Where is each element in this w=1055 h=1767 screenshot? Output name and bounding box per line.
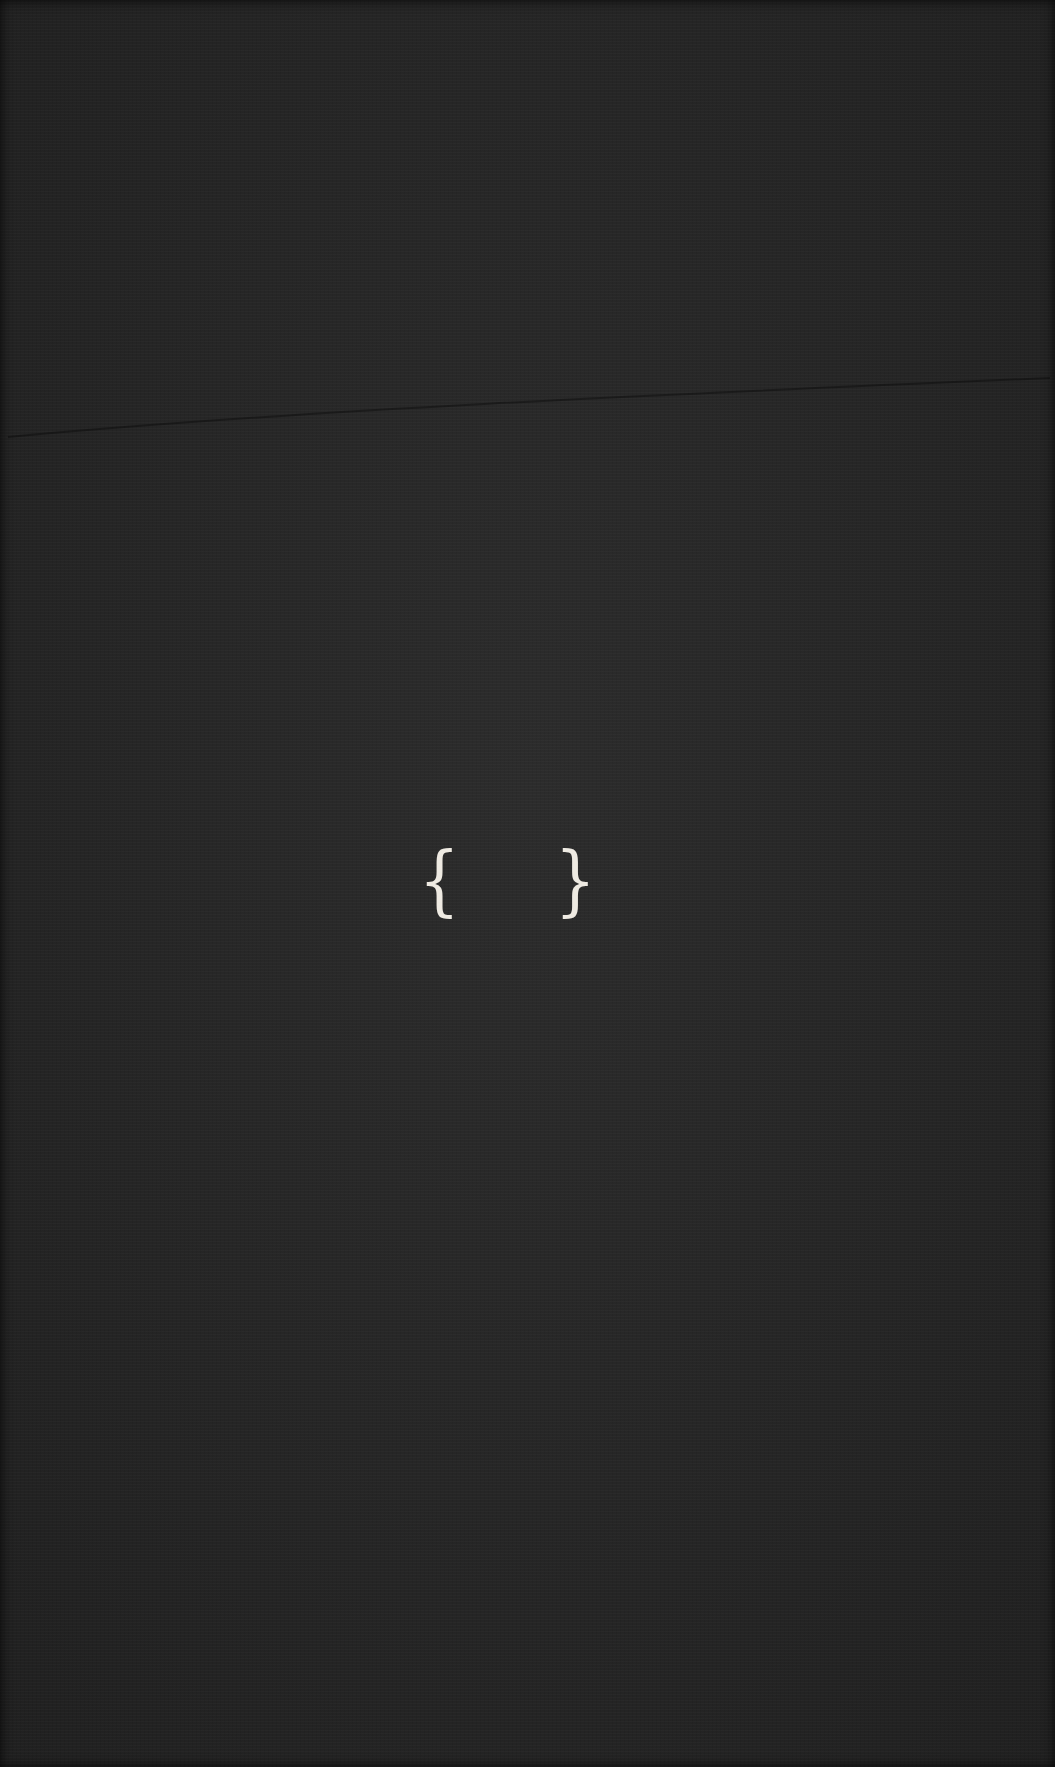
textured-background: { } [0, 0, 1055, 1767]
right-curly-brace: } [555, 830, 596, 930]
left-curly-brace: { [419, 830, 460, 930]
brace-pair: { } [0, 830, 1055, 930]
background-scratch-line [0, 0, 1055, 1767]
